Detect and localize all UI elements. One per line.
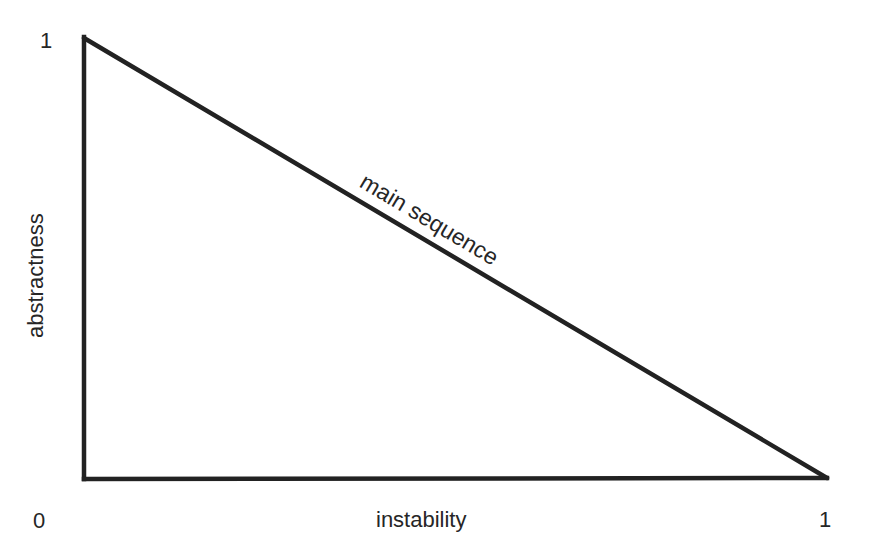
y-axis-label: abstractness bbox=[25, 213, 47, 338]
main-sequence-diagram bbox=[0, 0, 874, 554]
y-axis-max-tick-label: 1 bbox=[40, 30, 52, 52]
triangle-outline bbox=[84, 37, 827, 479]
main-sequence-line bbox=[84, 38, 827, 478]
x-axis-min-tick-label: 0 bbox=[33, 510, 45, 532]
x-axis-label: instability bbox=[376, 509, 466, 531]
x-axis-max-tick-label: 1 bbox=[819, 509, 831, 531]
x-axis-line bbox=[84, 478, 827, 479]
